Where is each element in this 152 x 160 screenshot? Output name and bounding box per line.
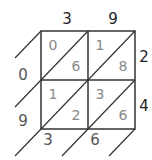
cell-ones: 2 — [70, 108, 82, 122]
result-digit: 6 — [88, 133, 102, 148]
result-digit: 3 — [41, 133, 55, 148]
cell-tens: 0 — [47, 38, 59, 52]
cell-ones: 8 — [117, 59, 129, 73]
cell-tens: 1 — [47, 87, 59, 101]
multiplier-digit: 4 — [137, 99, 151, 114]
multiplicand-digit: 9 — [106, 12, 120, 27]
cell-tens: 1 — [94, 38, 106, 52]
diagonals — [15, 31, 135, 156]
multiplier-digit: 2 — [137, 50, 151, 65]
cell-ones: 6 — [117, 108, 129, 122]
result-digit: 9 — [16, 114, 30, 129]
result-digit: 0 — [16, 68, 30, 83]
cell-ones: 6 — [70, 59, 82, 73]
cell-tens: 3 — [94, 87, 106, 101]
multiplicand-digit: 3 — [60, 12, 74, 27]
